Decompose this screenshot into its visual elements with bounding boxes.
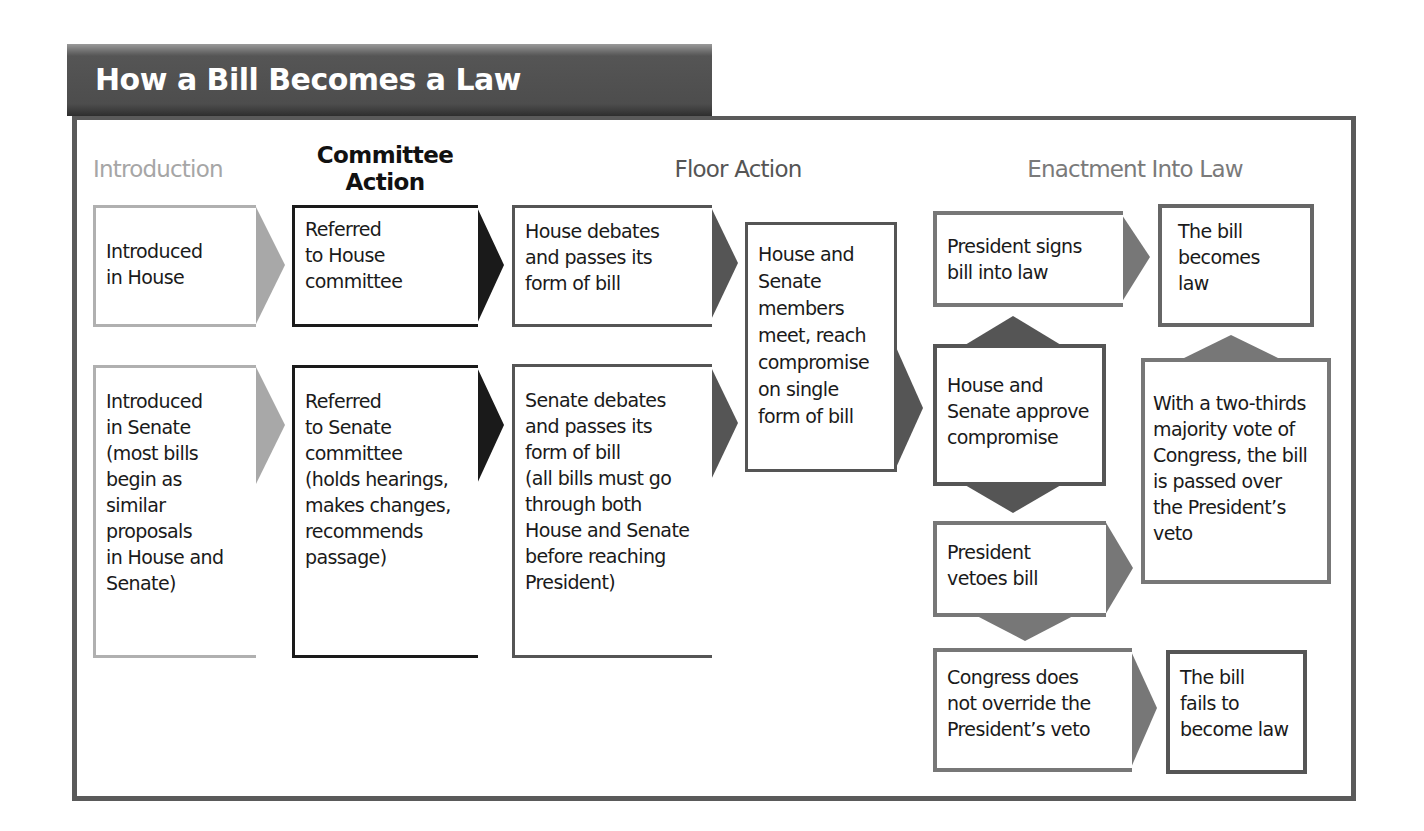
- diagram-title: How a Bill Becomes a Law: [95, 62, 521, 97]
- box-congress-no-override: Congress does not override the President…: [933, 648, 1132, 772]
- box-bill-becomes-law: The bill becomes law: [1158, 204, 1314, 327]
- title-banner: How a Bill Becomes a Law: [67, 44, 712, 116]
- box-senate-debates: Senate debates and passes its form of bi…: [512, 364, 712, 658]
- box-referred-to-house-committee: Referred to House committee: [292, 205, 478, 327]
- box-president-signs: President signs bill into law: [933, 211, 1123, 307]
- box-introduced-in-house: Introduced in House: [93, 205, 256, 327]
- stage-heading-enactment: Enactment Into Law: [995, 156, 1275, 183]
- box-referred-to-senate-committee: Referred to Senate committee (holds hear…: [292, 365, 478, 658]
- box-veto-override: With a two-thirds majority vote of Congr…: [1141, 358, 1331, 584]
- box-introduced-in-senate: Introduced in Senate (most bills begin a…: [93, 365, 256, 658]
- box-conference-committee: House and Senate members meet, reach com…: [745, 222, 897, 472]
- box-house-debates: House debates and passes its form of bil…: [512, 205, 712, 327]
- box-president-vetoes: President vetoes bill: [933, 521, 1106, 617]
- box-bill-fails: The bill fails to become law: [1166, 650, 1307, 774]
- stage-heading-introduction: Introduction: [93, 156, 253, 183]
- box-approve-compromise: House and Senate approve compromise: [933, 344, 1106, 486]
- stage-heading-committee: Committee Action: [290, 142, 480, 196]
- stage-heading-floor: Floor Action: [638, 156, 838, 183]
